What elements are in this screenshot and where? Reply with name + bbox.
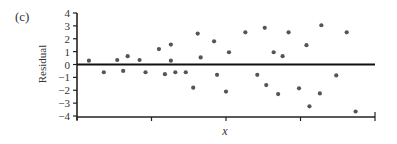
data-point — [173, 70, 177, 74]
data-point — [243, 30, 247, 34]
data-point — [215, 73, 219, 77]
data-point — [121, 69, 125, 73]
y-tick-label: 3 — [65, 20, 71, 32]
data-point — [307, 104, 311, 108]
data-point — [163, 72, 167, 76]
data-point — [115, 58, 119, 62]
data-point — [137, 58, 141, 62]
data-point — [304, 43, 308, 47]
data-point — [334, 73, 338, 77]
data-point — [281, 54, 285, 58]
data-point — [87, 59, 91, 63]
y-tick-label: −1 — [58, 71, 70, 83]
data-point — [199, 55, 203, 59]
data-point — [224, 89, 228, 93]
y-tick-label: 4 — [65, 7, 71, 19]
data-point — [169, 59, 173, 63]
data-point — [143, 70, 147, 74]
panel-label: (c) — [15, 9, 29, 24]
y-axis: 43210−1−2−3−4 — [58, 7, 77, 122]
data-point — [276, 92, 280, 96]
y-tick-label: −3 — [58, 97, 70, 109]
data-point — [263, 26, 267, 30]
x-axis — [77, 112, 375, 121]
data-point — [264, 83, 268, 87]
data-point — [319, 23, 323, 27]
data-point — [157, 47, 161, 51]
data-point — [286, 30, 290, 34]
data-point — [297, 86, 301, 90]
data-point — [196, 31, 200, 35]
data-points — [87, 23, 358, 113]
data-point — [255, 73, 259, 77]
residual-plot: (c) Residual x 43210−1−2−3−4 — [0, 0, 397, 144]
data-point — [318, 91, 322, 95]
data-point — [102, 70, 106, 74]
y-tick-label: −4 — [58, 110, 70, 122]
y-tick-label: 0 — [65, 59, 71, 71]
x-axis-label: x — [221, 124, 228, 138]
data-point — [184, 70, 188, 74]
data-point — [191, 86, 195, 90]
y-axis-label: Residual — [36, 45, 48, 84]
data-point — [345, 30, 349, 34]
data-point — [272, 50, 276, 54]
data-point — [354, 109, 358, 113]
data-point — [227, 50, 231, 54]
y-tick-label: 1 — [65, 46, 71, 58]
y-tick-label: 2 — [65, 33, 71, 45]
y-tick-label: −2 — [58, 84, 70, 96]
data-point — [212, 39, 216, 43]
data-point — [126, 54, 130, 58]
data-point — [169, 42, 173, 46]
